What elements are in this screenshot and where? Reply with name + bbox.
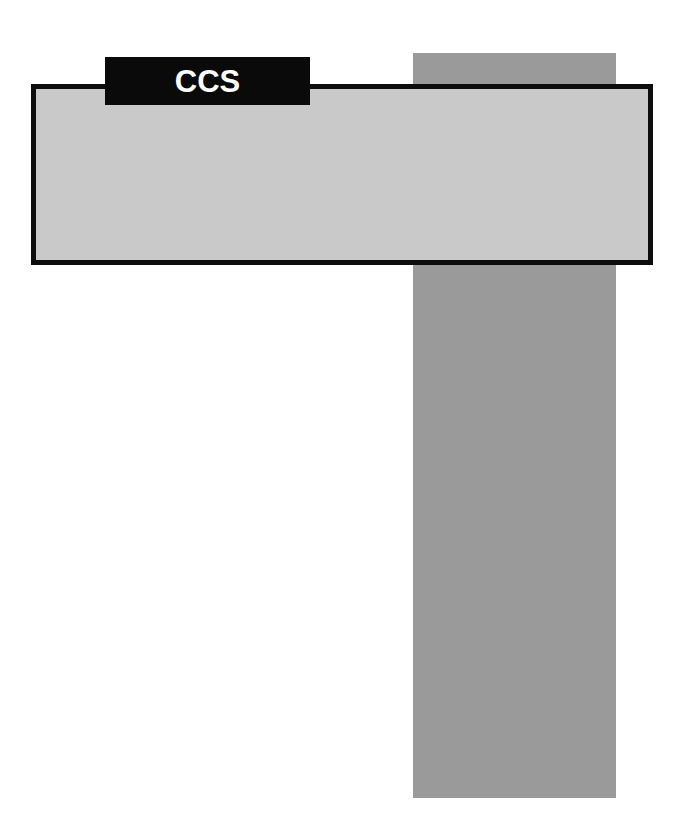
horizontal-band-shape xyxy=(31,84,653,265)
ccs-label-text: CCS xyxy=(175,66,240,97)
diagram-canvas: CCS xyxy=(0,0,679,835)
ccs-label-tab: CCS xyxy=(105,57,310,105)
